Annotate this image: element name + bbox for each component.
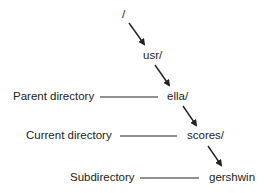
arrow-root-to-usr bbox=[129, 23, 144, 44]
node-root: / bbox=[122, 8, 125, 21]
arrow-scores-to-gershwin bbox=[208, 146, 221, 165]
node-gershwin: gershwin bbox=[209, 171, 255, 184]
arrow-usr-to-ella bbox=[155, 65, 169, 85]
label-parent-directory: Parent directory bbox=[13, 90, 94, 103]
node-scores: scores/ bbox=[187, 129, 224, 142]
label-subdirectory: Subdirectory bbox=[70, 171, 135, 184]
node-usr: usr/ bbox=[143, 49, 162, 62]
node-ella: ella/ bbox=[167, 90, 188, 103]
arrow-ella-to-scores bbox=[183, 106, 196, 125]
label-current-directory: Current directory bbox=[26, 129, 112, 142]
